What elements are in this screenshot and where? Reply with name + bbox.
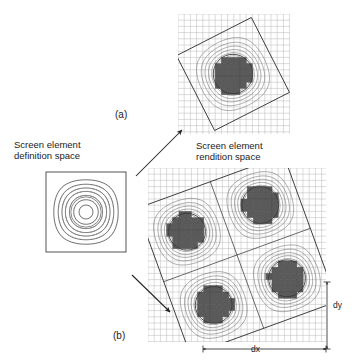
- label-panel-b: (b): [113, 330, 125, 341]
- label-dy: dy: [333, 300, 342, 311]
- label-panel-a: (a): [115, 109, 127, 120]
- label-definition-space: Screen element definition space: [14, 139, 81, 161]
- figure-canvas: [0, 0, 352, 361]
- label-dx: dx: [251, 344, 260, 355]
- label-rendition-space: Screen element rendition space: [196, 140, 263, 162]
- rendition-a-discs: [213, 54, 252, 94]
